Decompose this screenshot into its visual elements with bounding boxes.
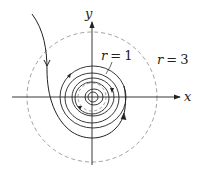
r1-leader-line — [106, 62, 112, 74]
phase-portrait-diagram: y x r=1 r=3 — [0, 0, 198, 174]
r1-label: r=1 — [101, 48, 132, 63]
x-axis-label: x — [184, 89, 192, 104]
y-axis-label: y — [84, 6, 93, 21]
arrow-icon — [121, 113, 126, 120]
r3-label: r=3 — [157, 52, 188, 67]
